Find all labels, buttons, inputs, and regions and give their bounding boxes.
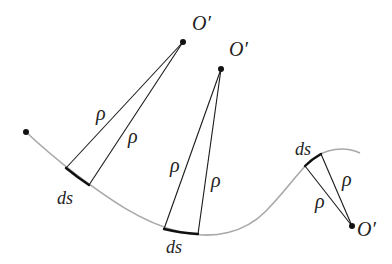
- radius-line: [66, 42, 183, 168]
- curve-endpoint-dot: [23, 129, 29, 135]
- curvature-triangle-2: O′ ρ ρ ds: [164, 38, 248, 257]
- center-label: O′: [357, 218, 376, 240]
- arc-element-ds: [164, 229, 198, 234]
- center-of-curvature-dot: [349, 223, 355, 229]
- radius-label: ρ: [127, 125, 138, 148]
- center-of-curvature-dot: [180, 39, 186, 45]
- curvature-diagram: O′ ρ ρ ds O′ ρ ρ ds O′ ρ ρ ds: [0, 0, 392, 264]
- radius-line: [321, 154, 352, 226]
- radius-label: ρ: [169, 154, 180, 177]
- curvature-triangle-3: O′ ρ ρ ds: [295, 139, 376, 240]
- center-label: O′: [192, 12, 211, 34]
- radius-label: ρ: [314, 190, 325, 213]
- center-of-curvature-dot: [218, 66, 224, 72]
- radius-line: [198, 69, 221, 234]
- ds-label: ds: [57, 188, 73, 208]
- radius-label: ρ: [341, 168, 352, 191]
- ds-label: ds: [166, 237, 182, 257]
- radius-label: ρ: [210, 169, 221, 192]
- center-label: O′: [229, 38, 248, 60]
- radius-label: ρ: [95, 102, 106, 125]
- arc-element-ds: [66, 168, 89, 185]
- ds-label: ds: [295, 139, 311, 159]
- radius-line: [164, 69, 221, 229]
- curvature-triangle-1: O′ ρ ρ ds: [57, 12, 211, 208]
